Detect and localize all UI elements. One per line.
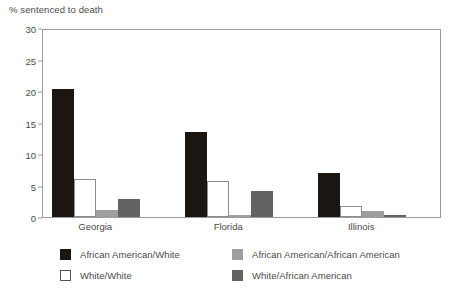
bar[interactable]	[362, 211, 384, 217]
legend-label: African American/White	[80, 249, 180, 260]
bar[interactable]	[74, 179, 96, 217]
y-axis-tick-label: 15	[25, 118, 36, 129]
chart-legend: African American/WhiteAfrican American/A…	[60, 249, 450, 289]
y-axis-tick-label: 30	[25, 24, 36, 35]
legend-item[interactable]: White/White	[60, 270, 132, 281]
bar[interactable]	[185, 132, 207, 217]
bar[interactable]	[340, 206, 362, 217]
legend-swatch-icon	[60, 249, 71, 260]
y-axis-tick-label: 5	[31, 181, 36, 192]
bar-group	[185, 30, 273, 217]
bar[interactable]	[52, 89, 74, 217]
bar[interactable]	[318, 173, 340, 217]
y-axis-tick-label: 25	[25, 55, 36, 66]
plot-area	[42, 29, 441, 218]
legend-item[interactable]: White/African American	[232, 270, 352, 281]
bar[interactable]	[118, 199, 140, 217]
x-axis-tick-label: Illinois	[348, 221, 374, 232]
y-axis: 051015202530	[0, 29, 42, 218]
bar[interactable]	[229, 215, 251, 217]
x-axis-tick-label: Georgia	[78, 221, 112, 232]
y-axis-tick-label: 0	[31, 213, 36, 224]
plot-inner	[43, 30, 440, 217]
chart-title: % sentenced to death	[9, 4, 103, 15]
legend-item[interactable]: African American/White	[60, 249, 180, 260]
bar[interactable]	[207, 181, 229, 217]
legend-label: White/White	[80, 270, 132, 281]
legend-swatch-icon	[232, 270, 243, 281]
legend-swatch-icon	[232, 249, 243, 260]
legend-label: African American/African American	[252, 249, 400, 260]
y-axis-tick-label: 10	[25, 150, 36, 161]
bar[interactable]	[251, 191, 273, 217]
bar[interactable]	[96, 210, 118, 217]
bar[interactable]	[384, 215, 406, 217]
y-axis-tick-label: 20	[25, 87, 36, 98]
bar-group	[52, 30, 140, 217]
bar-group	[318, 30, 406, 217]
x-axis-tick-label: Florida	[214, 221, 243, 232]
legend-swatch-icon	[60, 270, 71, 281]
x-axis: GeorgiaFloridaIllinois	[42, 221, 441, 237]
legend-label: White/African American	[252, 270, 352, 281]
legend-item[interactable]: African American/African American	[232, 249, 400, 260]
